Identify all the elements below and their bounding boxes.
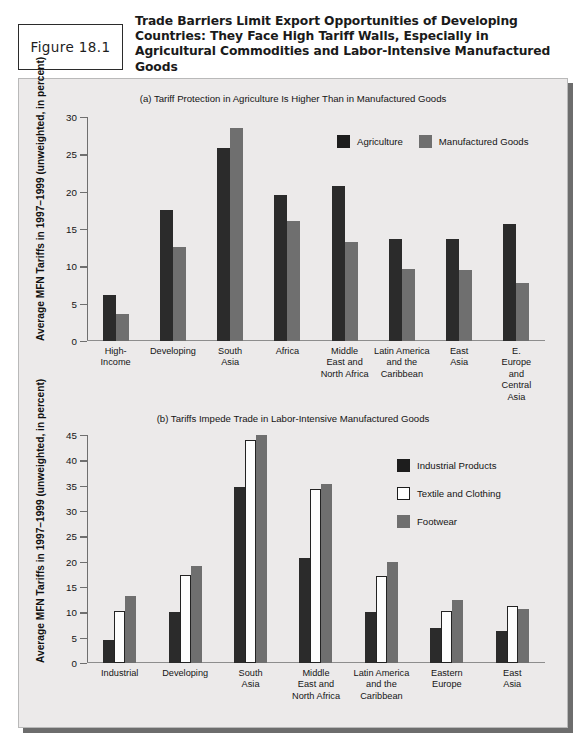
bar [387,562,398,663]
bar [234,487,245,663]
y-tick-label: 40 [66,455,77,466]
x-axis-label: E. Europe and Central Asia [502,346,532,403]
bar [103,295,116,341]
bar [332,186,345,341]
bar [516,283,529,341]
bar [160,210,173,341]
bar-group [202,117,259,341]
y-tick [80,511,87,512]
y-tick [80,612,87,613]
bar [245,440,256,663]
bar [287,221,300,341]
bar-group [283,435,348,663]
bar [321,484,332,663]
y-tick-label: 0 [72,658,77,669]
bar [365,612,376,663]
y-tick [80,460,87,461]
bar-group [480,435,545,663]
x-axis-label: Latin America and the Caribbean [374,346,430,380]
bar [256,435,267,663]
y-tick [80,562,87,563]
chart-b-plot: 051015202530354045IndustrialDevelopingSo… [87,435,545,663]
y-tick [80,117,87,118]
x-axis-label: Eastern Europe [431,668,463,691]
bar [459,270,472,341]
bar-group [431,117,488,341]
bar [441,611,452,663]
bar-group [144,117,201,341]
figure-number-box: Figure 18.1 [18,24,123,70]
bar [299,558,310,663]
x-axis-label: East Asia [503,668,521,691]
x-axis-label: Developing [150,346,196,357]
figure-panel: (a) Tariff Protection in Agriculture Is … [18,78,568,728]
y-tick [80,663,87,664]
bar [503,224,516,341]
y-tick-label: 15 [66,224,77,235]
y-tick-label: 20 [66,556,77,567]
y-tick-label: 25 [66,531,77,542]
x-axis-label: Africa [276,346,300,357]
bar [173,247,186,341]
bar [103,640,114,663]
x-axis-label: Middle East and North Africa [321,346,369,380]
bar [376,576,387,663]
x-axis-label: East Asia [450,346,468,369]
y-tick [80,266,87,267]
y-tick-label: 45 [66,430,77,441]
y-tick [80,341,87,342]
y-tick [80,536,87,537]
chart-a: (a) Tariff Protection in Agriculture Is … [19,83,567,403]
x-axis-label: Latin America and the Caribbean [354,668,410,702]
chart-b-bars [87,435,545,663]
x-axis-label: High- Income [101,346,131,369]
bar [389,239,402,341]
bar [191,566,202,663]
bar-group [373,117,430,341]
y-tick [80,638,87,639]
y-tick [80,435,87,436]
bar-group [152,435,217,663]
bar [310,489,321,663]
bar [169,612,180,663]
bar [217,148,230,341]
figure-number-label: Figure 18.1 [31,39,111,55]
bar [230,128,243,341]
chart-a-ylabel: Average MFN Tariffs in 1997–1999 (unweig… [35,117,47,341]
figure-title: Trade Barriers Limit Export Opportunitie… [135,14,571,75]
bar-group [316,117,373,341]
bar [125,596,136,663]
bar-group [87,435,152,663]
figure-container: Figure 18.1 Trade Barriers Limit Export … [0,0,586,742]
x-axis-label: South Asia [218,346,242,369]
bar-group [87,117,144,341]
y-tick-label: 10 [66,261,77,272]
bar [452,600,463,663]
y-tick [80,486,87,487]
chart-b-ylabel: Average MFN Tariffs in 1997–1999 (unweig… [35,435,47,663]
bar [430,628,441,663]
bar [402,269,415,341]
y-tick-label: 15 [66,582,77,593]
bar [345,242,358,341]
y-tick [80,154,87,155]
bar-group [414,435,479,663]
y-tick-label: 5 [72,632,77,643]
y-tick [80,192,87,193]
x-axis-label: Industrial [101,668,138,679]
chart-b-title: (b) Tariffs Impede Trade in Labor-Intens… [19,413,567,424]
bar [518,609,529,663]
bar [496,631,507,663]
y-tick-label: 20 [66,186,77,197]
bar-group [349,435,414,663]
bar [180,575,191,663]
chart-b: (b) Tariffs Impede Trade in Labor-Intens… [19,405,567,723]
y-tick [80,587,87,588]
y-tick-label: 10 [66,607,77,618]
y-tick [80,304,87,305]
y-tick-label: 35 [66,480,77,491]
bar [116,314,129,341]
bar [446,239,459,341]
x-axis-label: Middle East and North Africa [292,668,340,702]
figure-header: Figure 18.1 Trade Barriers Limit Export … [18,14,570,76]
